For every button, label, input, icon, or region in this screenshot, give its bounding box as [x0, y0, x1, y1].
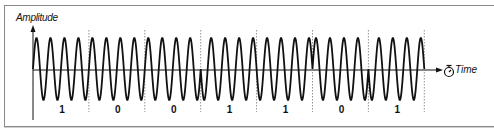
stopwatch-icon [445, 66, 454, 77]
y-axis-arrow-icon [31, 25, 36, 32]
carrier-wave [33, 38, 424, 100]
x-axis-arrow-icon [436, 68, 443, 73]
bit-label: 1 [387, 104, 407, 115]
bit-label: 1 [220, 104, 240, 115]
bit-label: 1 [52, 104, 72, 115]
bit-label: 0 [108, 104, 128, 115]
bit-label: 0 [331, 104, 351, 115]
bit-label: 0 [164, 104, 184, 115]
bit-label: 1 [276, 104, 296, 115]
